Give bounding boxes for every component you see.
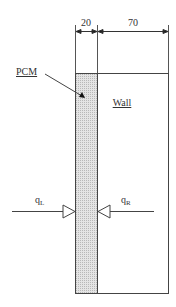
q-left-label: qL [35, 194, 44, 207]
wall-label: Wall [113, 97, 132, 108]
pcm-layer [76, 74, 98, 294]
pcm-label: PCM [16, 66, 37, 77]
dimension-line-pcm [76, 30, 97, 34]
dimension-label-pcm: 20 [81, 17, 91, 28]
wall-layer [98, 74, 169, 294]
dimension-label-wall: 70 [128, 17, 138, 28]
extension-lines [76, 25, 169, 73]
pcm-wall-diagram: 20 70 PCM Wall qL qR [0, 0, 176, 307]
q-right-label: qR [121, 194, 131, 207]
dimension-line-wall [98, 30, 168, 34]
